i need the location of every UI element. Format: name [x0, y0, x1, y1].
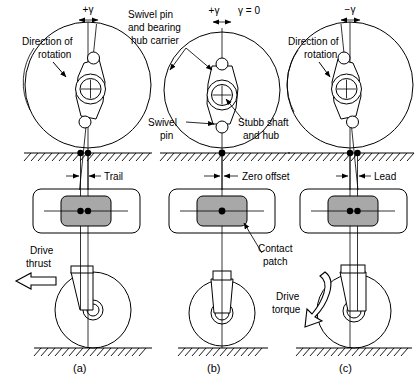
upper-swivel-pin-c	[338, 52, 350, 64]
stubb-shaft-label-line1: Stubb shaft	[238, 117, 289, 128]
swivel-pin-label-line2: pin	[160, 130, 173, 141]
hub-carrier-c	[332, 52, 362, 128]
hub-carrier-label-line2: and bearing	[128, 22, 181, 33]
rotation-arc-c	[287, 50, 298, 112]
lower-swivel-pin-b	[216, 121, 228, 133]
lower-swivel-pin-a	[79, 116, 91, 128]
hub-carrier-leader	[186, 48, 212, 70]
contact-patch-label-line2: patch	[263, 256, 287, 267]
diagram-canvas: +γ Direction of rotation Trail	[0, 0, 418, 382]
thrust-label-a-line2: thrust	[26, 258, 51, 269]
lead-label-c: Lead	[374, 171, 396, 182]
caption-c: (c)	[339, 362, 352, 374]
rotation-label-c-line1: Direction of	[288, 36, 339, 47]
swivel-pin-block-a	[71, 266, 93, 273]
ground-hatch-side-a	[34, 348, 146, 356]
zero-offset-label: Zero offset	[242, 171, 290, 182]
contact-patch-label-line1: Contact	[258, 243, 293, 254]
plan-dot-a1	[77, 208, 83, 214]
curved-down-arrow-icon-c	[305, 272, 331, 327]
panel-a-side-view: Drive thrust (a)	[16, 245, 152, 374]
stubb-shaft-label-line2: and hub	[243, 130, 280, 141]
ground-hatch-side-c	[296, 348, 408, 356]
gamma-label-a: +γ	[83, 4, 94, 15]
caption-a: (a)	[73, 362, 86, 374]
gamma-label-b: +γ	[209, 5, 220, 16]
ground-hatch-side-b	[178, 348, 262, 356]
panel-c-top-view: −γ Direction of rotation	[287, 4, 414, 190]
trail-label-a: Trail	[104, 171, 123, 182]
upper-swivel-pin-a	[88, 52, 100, 64]
technical-diagram: +γ Direction of rotation Trail	[0, 0, 418, 382]
swivel-pin-label-line1: Swivel	[148, 117, 177, 128]
rotation-label-a-line2: rotation	[38, 49, 71, 60]
swivel-pin-leader	[186, 122, 214, 124]
panel-c-side-view: Drive torque (c)	[272, 262, 412, 374]
hub-carrier-label-line1: Swivel pin	[128, 9, 173, 20]
rotation-label-a-line1: Direction of	[22, 36, 73, 47]
rotation-arrow-icon-c	[319, 62, 330, 77]
panel-b-top-view: +γ γ = 0 Swivel pin and bearing hub carr…	[128, 5, 290, 190]
hub-carrier-a	[76, 52, 106, 128]
hollow-left-arrow-icon-a	[16, 273, 56, 289]
torque-label-c-line2: torque	[272, 304, 301, 315]
stub-shaft-a	[71, 272, 93, 310]
upper-swivel-pin-b	[216, 58, 228, 70]
gamma-label-c: −γ	[345, 4, 356, 15]
plan-dot-c2	[354, 208, 360, 214]
plan-dot-c1	[347, 208, 353, 214]
plan-dot-a2	[85, 208, 91, 214]
rotation-label-c-line2: rotation	[304, 49, 337, 60]
plan-dot-b	[219, 208, 226, 215]
caption-b: (b)	[207, 362, 220, 374]
thrust-label-a-line1: Drive	[30, 245, 54, 256]
panel-b-side-view: (b)	[178, 262, 268, 374]
gamma-zero-label-b: γ = 0	[238, 5, 260, 16]
rotation-arrow-icon-a	[53, 62, 66, 77]
torque-label-c-line1: Drive	[276, 291, 300, 302]
panel-c-plan-view: Lead	[300, 153, 407, 262]
stub-shaft-c	[340, 272, 366, 311]
panel-b-plan-view: Zero offset Contact patch	[169, 153, 293, 267]
swivel-pin-block-c	[341, 265, 365, 273]
lower-swivel-pin-c	[347, 116, 359, 128]
hub-carrier-label-line3: hub carrier	[131, 35, 179, 46]
